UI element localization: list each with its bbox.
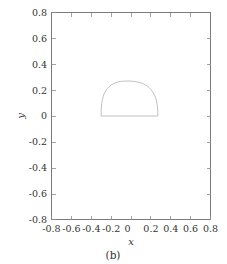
data-curve-closed-contour — [101, 81, 158, 116]
x-tick-label: 0.2 — [143, 223, 158, 234]
y-tick-label: -0.2 — [29, 136, 47, 147]
y-tick-label: 0.2 — [32, 85, 47, 96]
x-tick-label: -0.4 — [82, 223, 100, 234]
y-tick-label: 0.6 — [32, 33, 47, 44]
x-tick-label: 0.4 — [163, 223, 178, 234]
figure-caption: (b) — [106, 249, 121, 261]
x-tick-label: 0.6 — [183, 223, 198, 234]
y-tick-label: 0.4 — [32, 59, 47, 70]
x-tick-marks-top — [71, 13, 190, 17]
x-tick-label: -0.2 — [102, 223, 120, 234]
x-tick-label: -0.6 — [62, 223, 80, 234]
y-tick-label: -0.6 — [29, 188, 47, 199]
y-tick-marks — [52, 13, 56, 220]
x-axis-title: x — [128, 236, 134, 247]
chart-canvas: 0.8 0.6 0.4 0.2 0 -0.2 -0.4 -0.6 -0.8 -0… — [0, 0, 227, 264]
figure-panel-b: 0.8 0.6 0.4 0.2 0 -0.2 -0.4 -0.6 -0.8 -0… — [0, 0, 227, 264]
y-tick-label: 0 — [41, 110, 47, 121]
y-tick-label: -0.4 — [29, 162, 47, 173]
y-tick-labels: 0.8 0.6 0.4 0.2 0 -0.2 -0.4 -0.6 -0.8 — [29, 7, 47, 225]
y-axis-title: y — [15, 113, 26, 120]
x-tick-marks — [52, 216, 211, 220]
x-tick-label: 0.8 — [203, 223, 218, 234]
x-tick-label: -0.8 — [42, 223, 60, 234]
x-tick-label: 0 — [124, 223, 130, 234]
y-tick-marks-right — [207, 39, 211, 195]
y-tick-label: 0.8 — [32, 7, 47, 18]
x-tick-labels: -0.8 -0.6 -0.4 -0.2 0 0.2 0.4 0.6 0.8 — [42, 223, 218, 234]
